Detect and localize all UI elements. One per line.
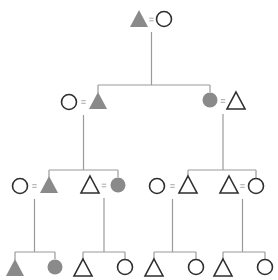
open-circle-female-icon — [249, 179, 264, 194]
filled-circle-female-icon — [48, 260, 63, 275]
descent-group — [49, 115, 118, 177]
descent-group — [154, 199, 196, 260]
kinship-diagram — [0, 0, 278, 280]
filled-triangle-male-icon — [6, 259, 24, 276]
open-triangle-male-icon — [214, 259, 232, 276]
open-circle-female-icon — [118, 260, 133, 275]
marriage-sign — [32, 185, 36, 188]
open-circle-female-icon — [150, 179, 165, 194]
filled-triangle-male-icon — [40, 176, 58, 193]
filled-triangle-male-icon — [130, 10, 148, 27]
marriage-sign — [81, 101, 85, 104]
descent-group — [223, 199, 265, 260]
open-circle-female-icon — [157, 12, 172, 27]
marriage-sign — [149, 18, 153, 21]
descent-group — [15, 199, 55, 260]
filled-circle-female-icon — [203, 93, 218, 108]
open-triangle-male-icon — [227, 92, 245, 109]
descent-group — [188, 114, 256, 178]
descent-group — [98, 32, 210, 93]
filled-triangle-male-icon — [89, 92, 107, 109]
filled-circle-female-icon — [111, 178, 126, 193]
open-circle-female-icon — [258, 260, 273, 275]
marriage-sign — [240, 185, 244, 188]
open-triangle-male-icon — [74, 259, 92, 276]
marriage-sign — [221, 100, 225, 103]
descent-lines — [15, 32, 265, 260]
open-circle-female-icon — [189, 260, 204, 275]
open-triangle-male-icon — [220, 176, 238, 193]
marriage-sign — [170, 185, 174, 188]
open-triangle-male-icon — [81, 176, 99, 193]
descent-group — [83, 198, 125, 260]
open-triangle-male-icon — [145, 259, 163, 276]
open-circle-female-icon — [62, 95, 77, 110]
marriage-sign — [102, 184, 106, 187]
individual-symbols — [6, 10, 273, 276]
open-triangle-male-icon — [179, 176, 197, 193]
open-circle-female-icon — [13, 179, 28, 194]
